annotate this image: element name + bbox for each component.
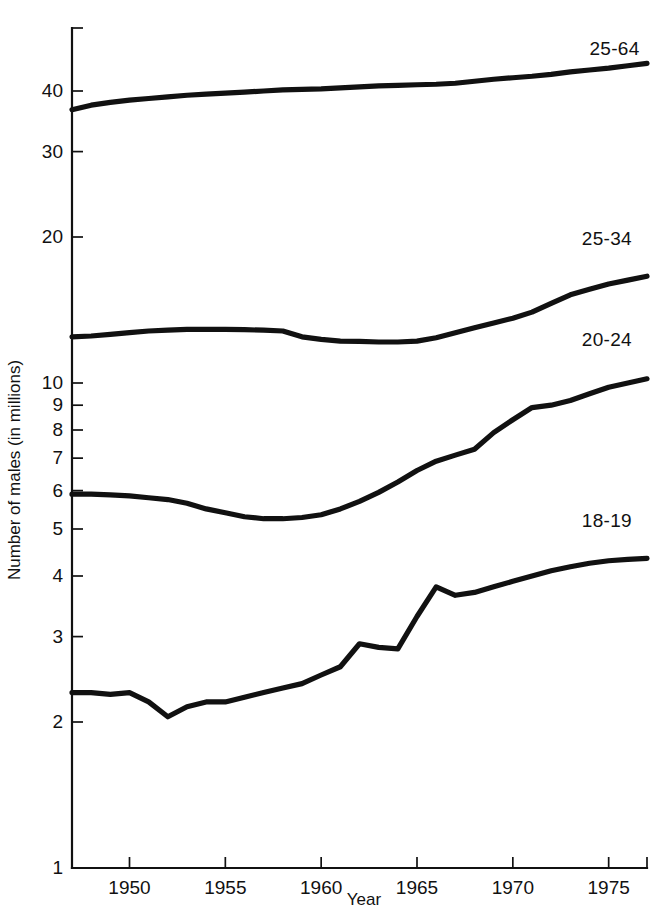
x-tick-label: 1970 bbox=[492, 877, 534, 898]
series-line-25-34 bbox=[72, 276, 647, 342]
y-tick-label: 1 bbox=[52, 857, 63, 878]
series-line-18-19 bbox=[72, 558, 647, 716]
y-tick-label: 20 bbox=[42, 226, 63, 247]
y-tick-label: 9 bbox=[52, 394, 63, 415]
chart-container: 12345678910203040 1950195519601965197019… bbox=[0, 0, 665, 923]
y-tick-label: 7 bbox=[52, 447, 63, 468]
series-label-25-64: 25-64 bbox=[590, 38, 640, 59]
y-tick-label: 3 bbox=[52, 626, 63, 647]
line-chart: 12345678910203040 1950195519601965197019… bbox=[0, 0, 665, 923]
series-label-25-34: 25-34 bbox=[582, 228, 632, 249]
y-tick-label: 30 bbox=[42, 141, 63, 162]
x-axis-title: Year bbox=[347, 890, 382, 909]
y-tick-label: 10 bbox=[42, 372, 63, 393]
x-tick-label: 1960 bbox=[300, 877, 342, 898]
series-label-20-24: 20-24 bbox=[582, 329, 632, 350]
y-tick-label: 40 bbox=[42, 80, 63, 101]
y-tick-label: 8 bbox=[52, 419, 63, 440]
y-tick-label: 4 bbox=[52, 565, 63, 586]
axis-lines bbox=[72, 28, 647, 868]
y-tick-label: 6 bbox=[52, 480, 63, 501]
series-line-20-24 bbox=[72, 379, 647, 519]
x-tick-label: 1950 bbox=[108, 877, 150, 898]
series-lines bbox=[72, 63, 647, 716]
y-tick-label: 2 bbox=[52, 711, 63, 732]
x-tick-label: 1965 bbox=[396, 877, 438, 898]
x-tick-label: 1975 bbox=[588, 877, 630, 898]
y-tick-label: 5 bbox=[52, 518, 63, 539]
series-label-18-19: 18-19 bbox=[582, 510, 632, 531]
y-axis-ticks: 12345678910203040 bbox=[42, 28, 83, 878]
y-axis-title: Number of males (in millions) bbox=[5, 360, 24, 580]
x-tick-label: 1955 bbox=[204, 877, 246, 898]
series-line-25-64 bbox=[72, 63, 647, 109]
